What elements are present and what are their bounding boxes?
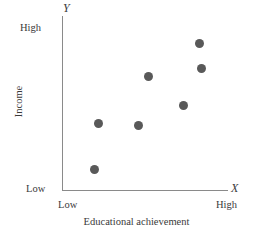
data-point xyxy=(197,64,206,73)
data-point xyxy=(144,72,153,81)
scatter-plot-figure: Y X High Low Low High Income Educational… xyxy=(0,0,273,241)
plot-area xyxy=(0,0,273,241)
data-point xyxy=(179,101,188,110)
data-point xyxy=(94,119,103,128)
data-point xyxy=(134,121,143,130)
data-point xyxy=(195,39,204,48)
data-point xyxy=(90,165,99,174)
